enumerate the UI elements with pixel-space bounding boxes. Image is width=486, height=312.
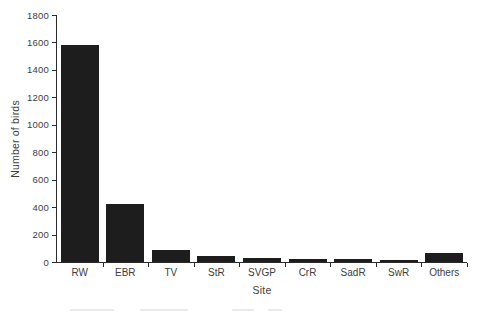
bar-others — [425, 253, 463, 262]
y-tick-label: 1200 — [19, 92, 49, 103]
y-tick-mark — [52, 42, 56, 43]
x-tick-mark — [376, 263, 377, 267]
bar-ebr — [106, 204, 144, 262]
y-tick-mark — [52, 97, 56, 98]
bar-chart-figure: Number of birds Site 0200400600800100012… — [0, 0, 486, 312]
y-tick-label: 1600 — [19, 37, 49, 48]
y-tick-mark — [52, 180, 56, 181]
cutoff-caption-fragment — [140, 309, 188, 311]
y-tick-label: 600 — [19, 174, 49, 185]
cutoff-caption-fragment — [268, 309, 282, 311]
x-tick-label-sadr: SadR — [330, 267, 376, 279]
y-tick-label: 1400 — [19, 64, 49, 75]
x-tick-mark — [285, 263, 286, 267]
x-tick-label-ebr: EBR — [103, 267, 149, 279]
y-tick-mark — [52, 235, 56, 236]
bar-sadr — [334, 259, 372, 262]
x-tick-mark — [194, 263, 195, 267]
x-axis-title: Site — [57, 284, 467, 296]
bar-svgp — [243, 258, 281, 262]
y-tick-mark — [52, 15, 56, 16]
y-tick-mark — [52, 125, 56, 126]
x-axis-line — [56, 262, 467, 263]
bar-str — [197, 256, 235, 262]
x-tick-label-tv: TV — [148, 267, 194, 279]
y-tick-label: 400 — [19, 202, 49, 213]
y-tick-mark — [52, 262, 56, 263]
x-tick-mark — [421, 263, 422, 267]
x-tick-label-svgp: SVGP — [239, 267, 285, 279]
y-tick-mark — [52, 152, 56, 153]
x-tick-mark — [467, 263, 468, 267]
y-tick-label: 800 — [19, 147, 49, 158]
x-tick-label-others: Others — [421, 267, 467, 279]
y-tick-label: 1800 — [19, 10, 49, 21]
x-tick-mark — [148, 263, 149, 267]
x-tick-mark — [239, 263, 240, 267]
bar-tv — [152, 250, 190, 262]
y-tick-mark — [52, 207, 56, 208]
y-tick-label: 1000 — [19, 119, 49, 130]
y-tick-label: 200 — [19, 229, 49, 240]
y-axis-line — [56, 15, 57, 262]
x-tick-label-crr: CrR — [285, 267, 331, 279]
x-tick-label-swr: SwR — [376, 267, 422, 279]
x-tick-label-str: StR — [194, 267, 240, 279]
bar-swr — [380, 260, 418, 262]
cutoff-caption-fragment — [70, 309, 114, 311]
y-tick-label: 0 — [19, 257, 49, 268]
y-axis-title: Number of birds — [9, 100, 21, 178]
y-tick-mark — [52, 70, 56, 71]
bar-rw — [61, 45, 99, 262]
bar-crr — [289, 259, 327, 262]
cutoff-caption-fragment — [232, 309, 254, 311]
x-tick-label-rw: RW — [57, 267, 103, 279]
x-tick-mark — [330, 263, 331, 267]
x-tick-mark — [103, 263, 104, 267]
